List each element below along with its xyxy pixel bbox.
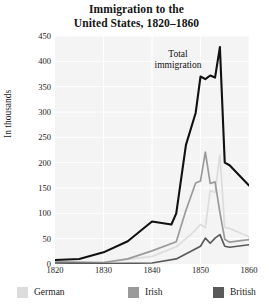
y-tick-label: 50 [25, 235, 51, 244]
legend-item-german[interactable]: German [17, 285, 65, 299]
x-tick-label: 1860 [229, 266, 269, 275]
legend-swatch-irish [128, 287, 139, 298]
legend-swatch-german [17, 287, 28, 298]
y-axis-ticks: 450400350300250200150100500 [23, 0, 51, 306]
chart-title-line1: Immigration to the [89, 3, 184, 15]
legend-label-irish: Irish [145, 287, 162, 297]
x-tick-label: 1830 [84, 266, 124, 275]
legend-label-british: British [230, 287, 256, 297]
chart-figure: Immigration to the United States, 1820–1… [0, 0, 273, 306]
legend-swatch-british [213, 287, 224, 298]
y-tick-label: 350 [25, 83, 51, 92]
annotation-line1: Total [168, 49, 187, 59]
y-tick-label: 200 [25, 159, 51, 168]
x-tick-label: 1850 [181, 266, 221, 275]
x-tick-label: 1820 [35, 266, 75, 275]
legend-item-irish[interactable]: Irish [128, 285, 162, 299]
y-tick-label: 100 [25, 209, 51, 218]
legend-item-british[interactable]: British [213, 285, 256, 299]
y-tick-label: 300 [25, 108, 51, 117]
y-tick-label: 250 [25, 133, 51, 142]
chart-legend: German Irish British [0, 285, 273, 303]
y-tick-label: 400 [25, 57, 51, 66]
legend-label-german: German [34, 287, 65, 297]
x-tick-label: 1840 [132, 266, 172, 275]
y-axis-label: In thousands [3, 124, 13, 138]
y-tick-label: 150 [25, 184, 51, 193]
annotation-line2: immigration [155, 60, 202, 70]
annotation-total-immigration: Total immigration [143, 49, 213, 71]
y-tick-label: 450 [25, 32, 51, 41]
